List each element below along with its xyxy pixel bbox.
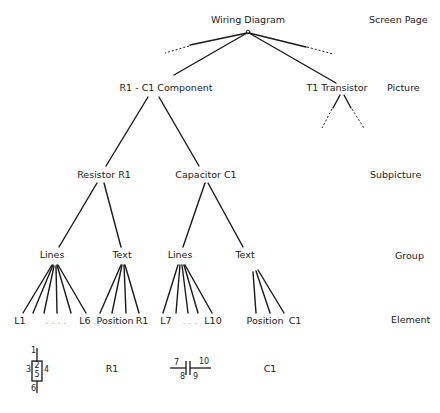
element-position-capacitor: Position — [247, 316, 284, 326]
level-element: Element — [391, 315, 430, 325]
capacitor-pin-7: 7 — [174, 359, 179, 367]
capacitor-symbol-label: C1 — [264, 364, 277, 374]
level-screen-page: Screen Page — [369, 15, 428, 25]
resistor-pin-1: 1 — [31, 347, 36, 355]
level-group: Group — [395, 251, 424, 261]
node-lines-resistor: Lines — [40, 250, 65, 260]
capacitor-pin-10: 10 — [199, 358, 209, 366]
level-subpicture: Subpicture — [370, 170, 421, 180]
node-capacitor: Capacitor C1 — [175, 170, 236, 180]
node-resistor: Resistor R1 — [77, 170, 131, 180]
node-component: R1 - C1 Component — [120, 83, 213, 93]
element-l7: L7 — [160, 316, 171, 326]
element-dots-capacitor: . . . — [182, 316, 197, 326]
node-transistor: T1 Transistor — [306, 83, 367, 93]
node-text-resistor: Text — [112, 250, 131, 260]
resistor-pin-4: 4 — [44, 366, 49, 374]
element-c1: C1 — [289, 316, 302, 326]
element-r1: R1 — [136, 316, 149, 326]
resistor-pin-3: 3 — [26, 366, 31, 374]
resistor-pin-6: 6 — [31, 385, 36, 393]
resistor-pin-2: 2 — [35, 362, 40, 370]
capacitor-pin-9: 9 — [193, 373, 198, 381]
node-wiring-diagram: Wiring Diagram — [211, 15, 285, 25]
level-picture: Picture — [387, 83, 420, 93]
resistor-symbol-label: R1 — [106, 364, 119, 374]
element-l1: L1 — [14, 316, 25, 326]
element-l6: L6 — [79, 316, 90, 326]
resistor-pin-5: 5 — [35, 371, 40, 379]
node-lines-capacitor: Lines — [168, 250, 193, 260]
tree-connectors — [0, 0, 440, 413]
element-dots-resistor: . . . . — [45, 316, 66, 326]
node-text-capacitor: Text — [235, 250, 254, 260]
element-l10: L10 — [204, 316, 221, 326]
element-position-resistor: Position — [97, 316, 134, 326]
capacitor-pin-8: 8 — [180, 373, 185, 381]
